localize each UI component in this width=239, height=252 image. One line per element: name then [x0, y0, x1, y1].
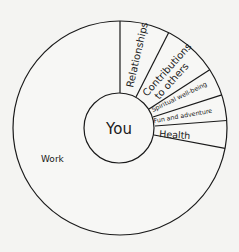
segment-label-health: Health	[159, 128, 191, 141]
segment-label-work: Work	[41, 154, 65, 164]
life-balance-diagram: You Relationships Contributions to other…	[0, 0, 239, 252]
center-label: You	[105, 120, 132, 138]
